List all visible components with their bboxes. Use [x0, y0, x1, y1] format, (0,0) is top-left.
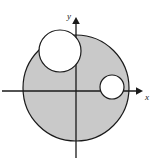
figure-container: y x [0, 0, 158, 162]
small-white-hole [100, 75, 124, 99]
x-axis-arrowhead [136, 87, 143, 95]
y-axis-label: y [66, 11, 71, 21]
x-axis-label: x [144, 92, 149, 102]
region-figure-svg: y x [0, 0, 158, 162]
large-white-hole [39, 30, 81, 72]
y-axis-arrowhead [72, 17, 80, 24]
